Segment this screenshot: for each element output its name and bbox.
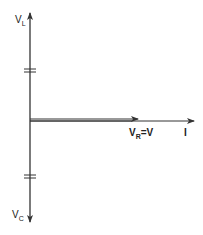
label-vr: VR=V [129,127,153,140]
phasor-diagram [0,0,203,235]
label-i: I [184,127,187,138]
label-vc: VC [12,209,24,222]
label-vl: VL [15,14,26,27]
